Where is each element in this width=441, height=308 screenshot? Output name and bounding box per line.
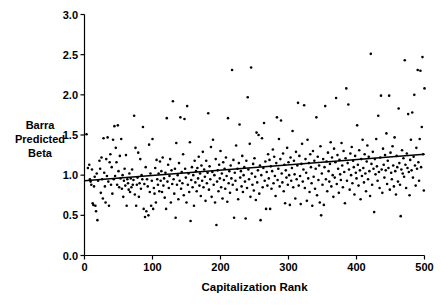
data-point [380,94,383,97]
data-point [233,171,236,174]
data-point [335,97,338,100]
data-point [350,174,353,177]
data-point [391,178,394,181]
data-point [285,176,288,179]
data-point [403,175,406,178]
data-point [144,216,147,219]
data-point [147,214,150,217]
data-point [277,167,280,170]
data-point [346,162,349,165]
data-point [198,184,201,187]
data-point [113,125,116,128]
data-point [354,155,357,158]
data-point [414,184,417,187]
data-point [400,168,403,171]
data-point [407,113,410,116]
data-point [405,187,408,190]
data-point [108,204,111,207]
data-point [161,191,164,194]
data-point [155,159,158,162]
data-point [264,160,267,163]
data-point [274,175,277,178]
data-point [238,162,241,165]
data-point [307,177,310,180]
data-point [95,172,98,175]
data-point [371,184,374,187]
data-point [329,163,332,166]
data-point [103,171,106,174]
data-point [406,152,409,155]
data-point [280,119,283,122]
data-point [171,183,174,186]
data-point [189,220,192,223]
data-point [255,199,258,202]
data-point [420,126,423,129]
data-point [340,142,343,145]
data-point [197,177,200,180]
data-point [260,174,263,177]
data-point [213,174,216,177]
data-point [170,169,173,172]
data-point [133,114,136,117]
data-point [201,179,204,182]
data-point [204,175,207,178]
data-point [130,186,133,189]
data-point [237,198,240,201]
data-point [413,94,416,97]
data-point [153,187,156,190]
data-point [362,167,365,170]
data-point [215,224,218,227]
data-point [175,142,178,145]
data-point [134,193,137,196]
data-point [172,178,175,181]
data-point [138,182,141,185]
data-point [145,210,148,213]
data-point [241,155,244,158]
data-point [219,177,222,180]
data-point [196,167,199,170]
data-point [352,166,355,169]
data-point [332,196,335,199]
data-point [272,148,275,151]
data-point [369,53,372,56]
data-point [169,158,172,161]
data-point [343,171,346,174]
data-point [312,150,315,153]
data-point [412,176,415,179]
data-point [401,172,404,175]
data-point [135,204,138,207]
data-point [180,188,183,191]
data-point [329,141,332,144]
x-tick-label: 400 [347,262,365,273]
data-point [397,107,400,110]
data-point [267,153,270,156]
data-point [116,184,119,187]
data-point [304,187,307,190]
data-point [182,153,185,156]
x-axis-title: Capitalization Rank [84,281,425,293]
data-point [117,170,120,173]
data-point [235,144,238,147]
data-point [406,167,409,170]
data-point [370,163,373,166]
data-point [121,188,124,191]
data-point [190,179,193,182]
data-point [378,187,381,190]
data-point [212,139,215,142]
data-point [139,158,142,161]
data-point [142,126,145,129]
data-point [91,168,94,171]
data-point [382,163,385,166]
data-point [301,143,304,146]
data-point [200,164,203,167]
data-point [129,191,132,194]
data-point [333,147,336,150]
data-point [359,169,362,172]
data-point [205,159,208,162]
data-point [398,162,401,165]
data-point [104,185,107,188]
x-tick-label: 0 [81,262,87,273]
data-point [185,201,188,204]
data-point [229,192,232,195]
data-point [421,56,424,59]
